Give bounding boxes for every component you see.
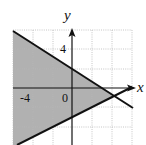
y-tick-4: 4 bbox=[60, 43, 66, 55]
x-axis-label: x bbox=[137, 80, 144, 95]
y-axis-label: y bbox=[64, 8, 71, 23]
x-tick-neg4: -4 bbox=[20, 92, 30, 104]
graph-canvas bbox=[0, 0, 146, 145]
origin-tick-0: 0 bbox=[62, 92, 68, 104]
